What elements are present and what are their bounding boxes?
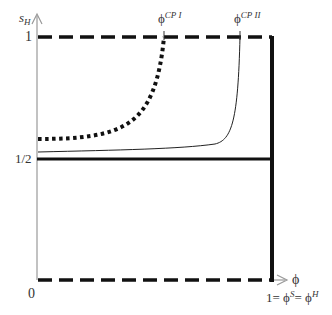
x-axis-label: ϕ	[292, 273, 299, 287]
y-tick-0: 0	[28, 287, 35, 301]
cp2-symbol: ϕ	[234, 11, 241, 26]
cp2-label: ϕCP II	[234, 11, 260, 25]
y-tick-half: 1/2	[15, 152, 32, 165]
y-tick-1: 1	[25, 30, 32, 44]
curve-cp2-thin	[38, 37, 240, 152]
x-end-label: 1= ϕS= ϕH	[266, 290, 318, 304]
x-end-sup-h: H	[312, 289, 319, 299]
cp2-sup: CP II	[241, 10, 261, 20]
x-end-prefix: 1= ϕ	[266, 290, 290, 305]
y-axis-label: sH	[19, 11, 31, 27]
curve-cp1-dotted	[38, 37, 164, 139]
x-end-mid: = ϕ	[294, 290, 311, 305]
y-axis-label-sub: H	[24, 17, 31, 27]
phase-diagram	[0, 0, 332, 315]
cp1-symbol: ϕ	[158, 11, 165, 26]
cp1-label: ϕCP I	[158, 11, 181, 25]
cp1-sup: CP I	[165, 10, 182, 20]
